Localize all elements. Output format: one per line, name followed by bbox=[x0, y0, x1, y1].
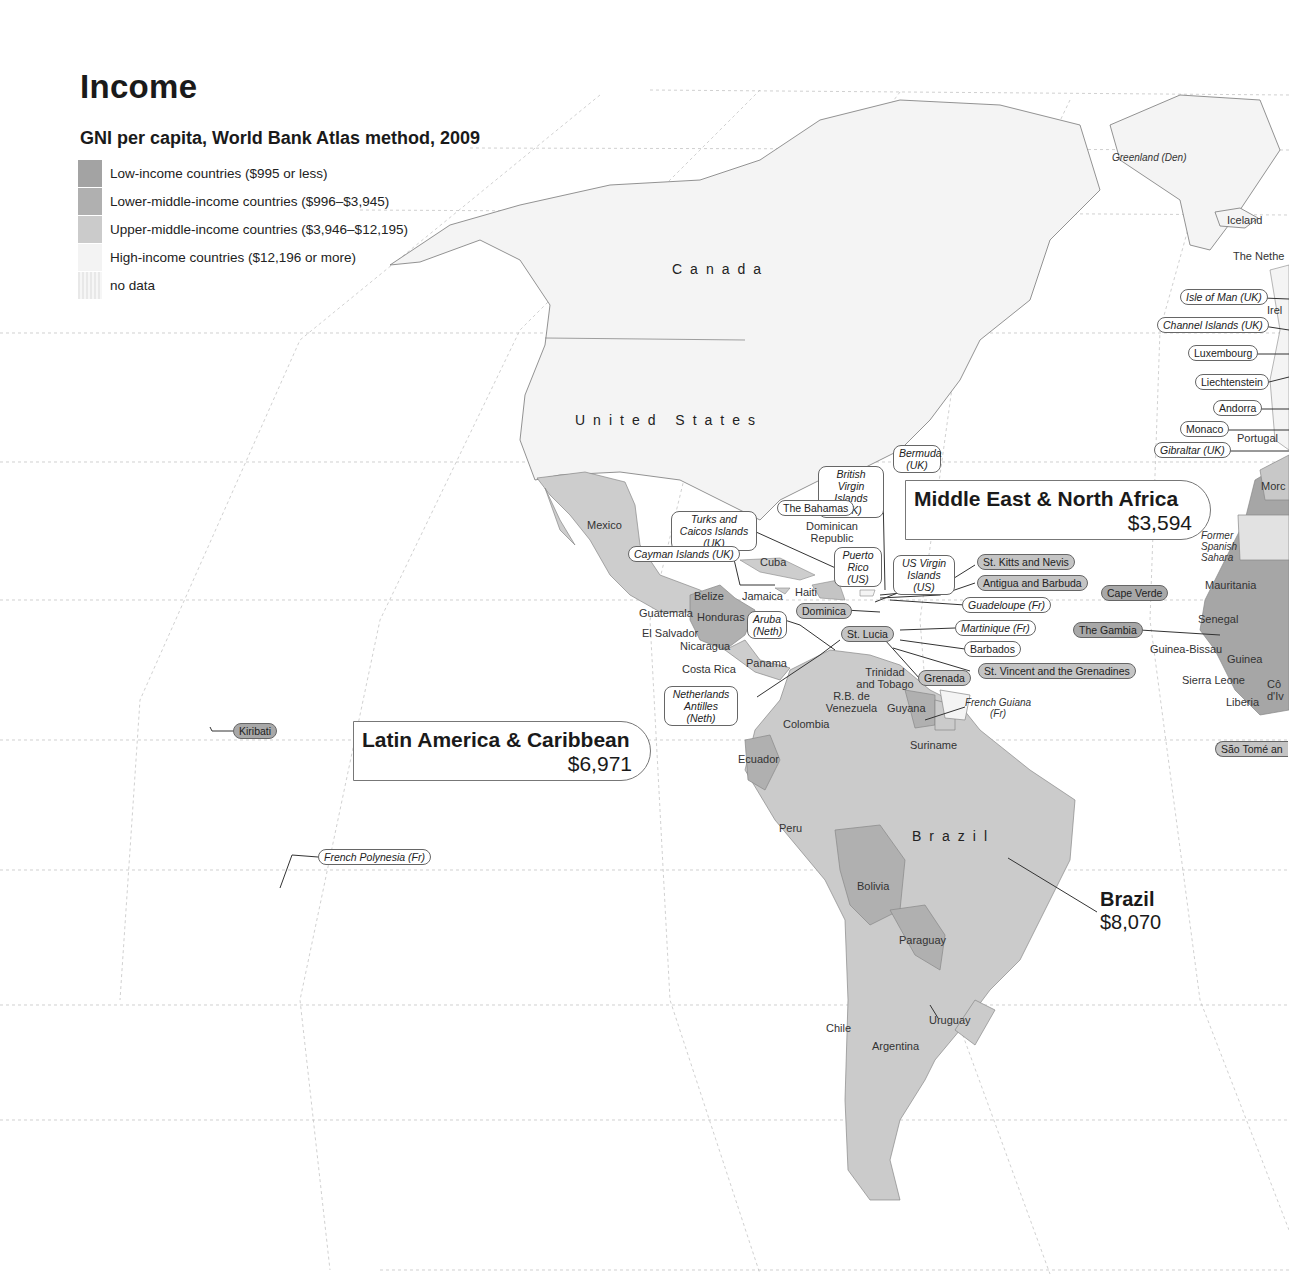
label-mauritania: Mauritania bbox=[1205, 579, 1256, 591]
tag-martinique: Martinique (Fr) bbox=[955, 620, 1036, 636]
tag-andorra: Andorra bbox=[1213, 400, 1262, 416]
tag-bahamas: The Bahamas bbox=[777, 500, 854, 516]
label-suriname: Suriname bbox=[910, 739, 957, 751]
europe-edge bbox=[1270, 265, 1289, 450]
label-morocco: Morc bbox=[1261, 480, 1285, 492]
legend-label: Upper-middle-income countries ($3,946–$1… bbox=[110, 222, 408, 237]
tag-antigua-and-barbuda: Antigua and Barbuda bbox=[977, 575, 1088, 591]
tag-luxembourg: Luxembourg bbox=[1188, 345, 1258, 361]
label-uruguay: Uruguay bbox=[929, 1014, 971, 1026]
label-ireland: Irel bbox=[1267, 304, 1282, 316]
label-panama: Panama bbox=[746, 657, 787, 669]
tag-grenada: Grenada bbox=[918, 670, 971, 686]
tag-bermuda: Bermuda (UK) bbox=[893, 445, 941, 473]
tag-isle-of-man: Isle of Man (UK) bbox=[1180, 289, 1268, 305]
label-portugal: Portugal bbox=[1237, 432, 1278, 444]
label-trinidad-and-tobago: Trinidad and Tobago bbox=[855, 666, 915, 690]
tag-french-polynesia: French Polynesia (Fr) bbox=[318, 849, 431, 865]
legend-item-low-income: Low-income countries ($995 or less) bbox=[78, 159, 408, 187]
label-brazil: Brazil bbox=[912, 829, 995, 844]
tag-st-kitts-and-nevis: St. Kitts and Nevis bbox=[977, 554, 1075, 570]
label-costa-rica: Costa Rica bbox=[682, 663, 736, 675]
legend: Low-income countries ($995 or less) Lowe… bbox=[78, 159, 408, 299]
legend-swatch bbox=[78, 244, 102, 271]
label-paraguay: Paraguay bbox=[899, 934, 946, 946]
tag-kiribati: Kiribati bbox=[233, 723, 277, 739]
tag-dominica: Dominica bbox=[796, 603, 852, 619]
label-guinea-bissau: Guinea-Bissau bbox=[1150, 643, 1222, 655]
label-bolivia: Bolivia bbox=[857, 880, 889, 892]
label-iceland: Iceland bbox=[1227, 214, 1262, 226]
south-america bbox=[745, 650, 1075, 1200]
map-title: Income bbox=[80, 68, 197, 106]
tag-puerto-rico: Puerto Rico (US) bbox=[834, 547, 882, 587]
legend-label: Low-income countries ($995 or less) bbox=[110, 166, 328, 181]
tag-monaco: Monaco bbox=[1180, 421, 1229, 437]
legend-swatch bbox=[78, 216, 102, 243]
region-value: $3,594 bbox=[914, 511, 1192, 535]
label-ecuador: Ecuador bbox=[738, 753, 779, 765]
legend-swatch bbox=[78, 188, 102, 215]
callout-value: $8,070 bbox=[1100, 911, 1161, 934]
tag-liechtenstein: Liechtenstein bbox=[1195, 374, 1269, 390]
label-nicaragua: Nicaragua bbox=[680, 640, 730, 652]
label-haiti: Haiti bbox=[795, 586, 817, 598]
label-chile: Chile bbox=[826, 1022, 851, 1034]
label-argentina: Argentina bbox=[872, 1040, 919, 1052]
label-sierra-leone: Sierra Leone bbox=[1182, 674, 1245, 686]
label-canada: Canada bbox=[672, 262, 769, 277]
legend-item-high-income: High-income countries ($12,196 or more) bbox=[78, 243, 408, 271]
label-guinea: Guinea bbox=[1227, 653, 1262, 665]
legend-item-lower-middle-income: Lower-middle-income countries ($996–$3,9… bbox=[78, 187, 408, 215]
region-name: Middle East & North Africa bbox=[914, 487, 1192, 511]
tag-channel-islands: Channel Islands (UK) bbox=[1157, 317, 1269, 333]
label-mexico: Mexico bbox=[587, 519, 622, 531]
label-honduras: Honduras bbox=[697, 611, 745, 623]
label-colombia: Colombia bbox=[783, 718, 829, 730]
label-venezuela: R.B. de Venezuela bbox=[824, 690, 879, 714]
legend-swatch bbox=[78, 160, 102, 187]
label-french-guiana: French Guiana (Fr) bbox=[963, 697, 1033, 719]
tag-gibraltar: Gibraltar (UK) bbox=[1154, 442, 1231, 458]
region-name: Latin America & Caribbean bbox=[362, 728, 632, 752]
label-dominican-republic: Dominican Republic bbox=[803, 520, 861, 544]
tag-aruba: Aruba (Neth) bbox=[747, 611, 787, 639]
tag-st-lucia: St. Lucia bbox=[841, 626, 894, 642]
label-liberia: Liberia bbox=[1226, 696, 1259, 708]
map-subtitle: GNI per capita, World Bank Atlas method,… bbox=[80, 128, 480, 149]
label-greenland: Greenland (Den) bbox=[1112, 152, 1186, 163]
label-guatemala: Guatemala bbox=[639, 607, 693, 619]
tag-st-vincent: St. Vincent and the Grenadines bbox=[978, 663, 1136, 679]
legend-item-no-data: no data bbox=[78, 271, 408, 299]
tag-barbados: Barbados bbox=[964, 641, 1021, 657]
label-netherlands: The Nethe bbox=[1233, 250, 1284, 262]
legend-item-upper-middle-income: Upper-middle-income countries ($3,946–$1… bbox=[78, 215, 408, 243]
label-senegal: Senegal bbox=[1198, 613, 1238, 625]
region-callout-mena: Middle East & North Africa $3,594 bbox=[905, 480, 1211, 540]
tag-us-virgin-islands: US Virgin Islands (US) bbox=[893, 555, 955, 595]
label-jamaica: Jamaica bbox=[742, 590, 783, 602]
label-former-spanish-sahara: Former Spanish Sahara bbox=[1201, 530, 1241, 563]
region-callout-lac: Latin America & Caribbean $6,971 bbox=[353, 721, 651, 781]
region-value: $6,971 bbox=[362, 752, 632, 776]
label-peru: Peru bbox=[779, 822, 802, 834]
label-cuba: Cuba bbox=[760, 556, 786, 568]
callout-name: Brazil bbox=[1100, 888, 1161, 911]
legend-label: Lower-middle-income countries ($996–$3,9… bbox=[110, 194, 389, 209]
label-united-states: United States bbox=[575, 413, 763, 428]
label-el-salvador: El Salvador bbox=[642, 627, 698, 639]
label-belize: Belize bbox=[694, 590, 724, 602]
label-cote-divoire: Cô d'Iv bbox=[1267, 678, 1289, 702]
tag-sao-tome: São Tomé an bbox=[1215, 741, 1288, 757]
tag-cayman-islands: Cayman Islands (UK) bbox=[628, 546, 740, 562]
tag-netherlands-antilles: Netherlands Antilles (Neth) bbox=[664, 686, 738, 726]
tag-cape-verde: Cape Verde bbox=[1101, 585, 1168, 601]
legend-label: no data bbox=[110, 278, 155, 293]
country-callout-brazil: Brazil $8,070 bbox=[1100, 888, 1161, 934]
legend-label: High-income countries ($12,196 or more) bbox=[110, 250, 356, 265]
tag-the-gambia: The Gambia bbox=[1073, 622, 1143, 638]
tag-guadeloupe: Guadeloupe (Fr) bbox=[962, 597, 1051, 613]
legend-swatch bbox=[78, 272, 102, 299]
label-guyana: Guyana bbox=[887, 702, 926, 714]
